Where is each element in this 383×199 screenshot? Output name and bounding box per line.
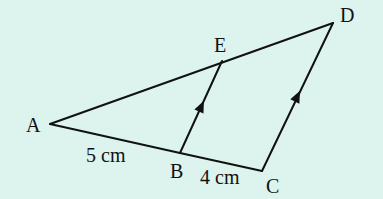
label-b: B — [170, 160, 183, 182]
label-d: D — [340, 4, 354, 26]
label-e: E — [214, 34, 226, 56]
geometry-diagram: A B C D E 5 cm 4 cm — [0, 0, 383, 199]
label-a: A — [26, 114, 41, 136]
label-c: C — [266, 175, 279, 197]
background — [0, 0, 383, 199]
diagram-canvas: A B C D E 5 cm 4 cm — [0, 0, 383, 199]
measurement-bc: 4 cm — [200, 166, 240, 188]
measurement-ab: 5 cm — [86, 144, 126, 166]
